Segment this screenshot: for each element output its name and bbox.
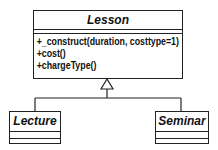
class-name: Seminar xyxy=(156,112,208,131)
attributes-divider xyxy=(156,131,208,138)
class-name: Lecture xyxy=(10,112,60,131)
operation: +cost() xyxy=(34,48,164,60)
generalization-arrowhead xyxy=(101,79,113,89)
operations-divider xyxy=(156,138,208,139)
operation: +_construct(duration, costtype=1) xyxy=(34,34,164,48)
operations-compartment: +_construct(duration, costtype=1) +cost(… xyxy=(34,33,182,72)
class-seminar: Seminar xyxy=(155,111,209,144)
class-lecture: Lecture xyxy=(9,111,61,144)
operation: +chargeType() xyxy=(34,60,164,72)
operations-divider xyxy=(10,138,60,139)
class-name: Lesson xyxy=(34,11,182,29)
class-lesson: Lesson +_construct(duration, costtype=1)… xyxy=(33,10,183,79)
attributes-divider xyxy=(10,131,60,138)
